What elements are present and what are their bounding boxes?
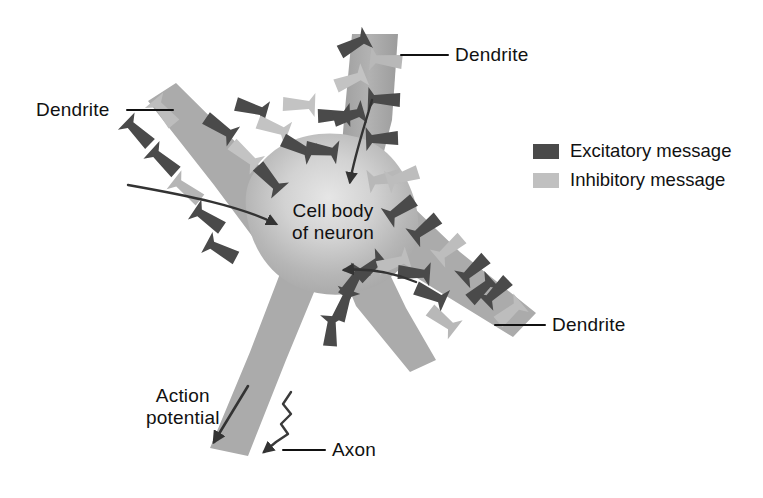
excitatory-swatch-icon — [533, 144, 559, 159]
terminal-inhibitory — [283, 92, 316, 117]
terminal-excitatory — [201, 232, 241, 269]
inhibitory-swatch-icon — [533, 173, 559, 188]
label-action-potential: Action potential — [146, 385, 220, 429]
label-dendrite-right: Dendrite — [552, 314, 625, 335]
label-cell-body: Cell body of neuron — [292, 200, 374, 244]
legend-label-inhibitory: Inhibitory message — [570, 169, 725, 191]
label-cell-body-line2: of neuron — [292, 222, 374, 244]
label-dendrite-top: Dendrite — [455, 44, 528, 65]
diagram-canvas: Dendrite Dendrite Dendrite Cell body of … — [0, 0, 763, 498]
legend-item-inhibitory: Inhibitory message — [533, 169, 731, 191]
label-axon: Axon — [332, 439, 376, 460]
neuron-illustration — [0, 0, 763, 498]
legend-label-excitatory: Excitatory message — [570, 140, 731, 162]
label-cell-body-line1: Cell body — [292, 200, 374, 222]
legend: Excitatory message Inhibitory message — [533, 140, 731, 191]
terminal-excitatory — [118, 112, 158, 152]
label-action-potential-line1: Action — [146, 385, 220, 407]
label-dendrite-left: Dendrite — [36, 99, 109, 120]
legend-item-excitatory: Excitatory message — [533, 140, 731, 162]
label-action-potential-line2: potential — [146, 407, 220, 429]
